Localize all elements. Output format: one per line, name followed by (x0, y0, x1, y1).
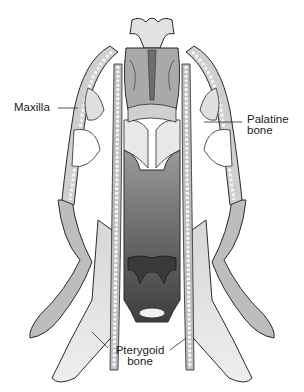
pterygoid-leader-line-right (170, 338, 186, 350)
maxilla-left (62, 46, 118, 205)
nasal-region (124, 48, 179, 122)
skull-diagram (0, 0, 304, 392)
braincase (124, 150, 180, 322)
premaxilla (130, 18, 174, 48)
palatine-bone-right (182, 64, 194, 370)
label-palatine-bone: Palatine bone (247, 114, 289, 136)
label-maxilla-text: Maxilla (14, 101, 50, 113)
maxilla-right (186, 46, 242, 205)
label-pterygoid-line2: bone (111, 356, 169, 367)
label-palatine-line2: bone (247, 125, 289, 136)
label-pterygoid-bone: Pterygoid bone (111, 345, 169, 367)
label-maxilla: Maxilla (14, 102, 50, 113)
palatine-bone-left (110, 64, 122, 370)
